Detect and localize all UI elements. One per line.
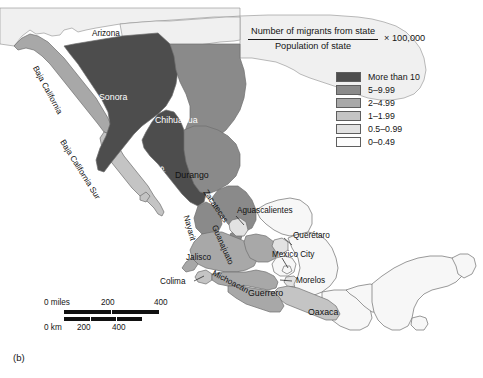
legend-item: 0.5–0.99 [336,122,420,135]
scale-bar-miles-tick: 400 [154,298,168,307]
legend-formula-denominator: Population of state [272,40,354,53]
region-guerrero [228,286,284,312]
legend-item: More than 10 [336,70,420,83]
legend-label: 0–0.49 [368,137,395,147]
legend-swatch [336,98,361,108]
panel-label: (b) [13,352,25,363]
region-mexico-city [272,256,296,276]
scale-bar-tick [116,317,117,321]
map-legend: Number of migrants from state Population… [248,26,478,52]
legend-fraction: Number of migrants from state Population… [248,26,378,52]
region-colima [195,270,212,284]
scale-bar-km-unit: 0 km [44,323,62,332]
scale-bar-km-rule [64,317,142,321]
legend-label: 2–4.99 [368,98,395,108]
legend-item: 2–4.99 [336,96,420,109]
legend-formula-multiplier: × 100,000 [384,33,425,45]
scale-bar: 0 miles 200 400 0 km 200 400 [44,298,179,334]
scale-bar-tick [90,317,91,321]
scale-bar-km-tick: 200 [77,323,91,332]
legend-swatch [336,85,361,95]
legend-item: 0–0.49 [336,135,420,148]
legend-formula: Number of migrants from state Population… [248,26,478,52]
legend-swatch [336,72,361,82]
legend-item: 5–9.99 [336,83,420,96]
scale-bar-miles-tick: 200 [101,298,115,307]
legend-item: 1–1.99 [336,109,420,122]
legend-label: 5–9.99 [368,85,395,95]
scale-bar-miles-unit: 0 miles [44,298,70,307]
legend-formula-numerator: Number of migrants from state [248,26,378,39]
scale-bar-tick [111,310,112,314]
legend-label: 0.5–0.99 [368,124,402,134]
legend-swatch [336,124,361,134]
map-figure: .b { stroke:#8d8d8d; stroke-width:0.6; }… [0,0,483,378]
legend-class-list: More than 10 5–9.99 2–4.99 1–1.99 0.5–0.… [336,70,420,148]
region-yucatan-peninsula [372,254,476,330]
legend-swatch [336,111,361,121]
legend-swatch [336,137,361,147]
legend-label: More than 10 [368,72,420,82]
scale-bar-km-tick: 400 [112,323,126,332]
legend-label: 1–1.99 [368,111,395,121]
scale-bar-miles-rule [64,310,159,314]
